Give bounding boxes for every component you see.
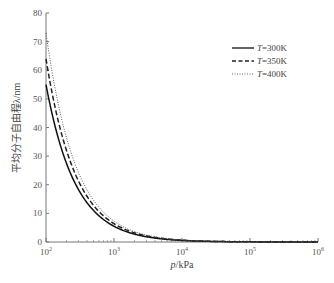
- y-tick-label: 70: [33, 37, 43, 47]
- y-tick-label: 50: [33, 94, 43, 104]
- curve-t-350k: [46, 59, 318, 242]
- x-tick-label: 103: [108, 246, 120, 257]
- legend-label-300k: T=300K: [257, 43, 288, 53]
- y-tick-label: 80: [33, 8, 43, 18]
- x-tick-label: 106: [312, 246, 324, 257]
- y-tick-label: 0: [38, 237, 43, 247]
- curve-t-300k: [46, 85, 318, 242]
- line-chart: 01020304050607080 102103104105106 p/kPa …: [0, 0, 334, 283]
- x-tick-label: 104: [176, 246, 188, 257]
- y-ticks: 01020304050607080: [33, 8, 49, 247]
- legend: T=300K T=350K T=400K: [232, 43, 288, 79]
- y-tick-label: 40: [33, 123, 43, 133]
- y-tick-label: 10: [33, 208, 43, 218]
- x-axis-label: p/kPa: [170, 259, 194, 270]
- x-tick-label: 105: [244, 246, 256, 257]
- x-tick-label: 102: [40, 246, 52, 257]
- y-axis-label: 平均分子自由程λ/nm: [10, 83, 22, 174]
- y-tick-label: 20: [33, 180, 43, 190]
- legend-label-400k: T=400K: [257, 69, 288, 79]
- y-tick-label: 30: [33, 151, 43, 161]
- y-tick-label: 60: [33, 65, 43, 75]
- legend-label-350k: T=350K: [257, 56, 288, 66]
